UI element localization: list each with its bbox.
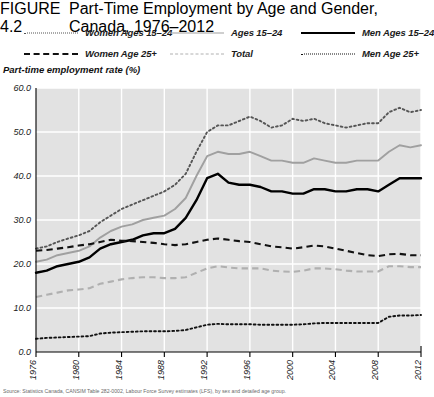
y-axis-title: Part-time employment rate (%): [3, 64, 140, 75]
x-tick-label: 2008: [370, 360, 380, 381]
x-tick-label: 1976: [28, 360, 38, 380]
legend-item-women-ages-15-24: Women Ages 15–24: [24, 27, 170, 38]
legend-row-2: Women Age 25+ Total Men Age 25+: [24, 43, 430, 64]
y-tick-label: 0.0: [18, 347, 31, 357]
legend-item-total: Total: [170, 48, 301, 59]
legend-item-men-ages-15-24: Men Ages 15–24: [301, 27, 430, 38]
y-tick-label: 30.0: [13, 215, 31, 225]
legend-swatch-dotted-gray: [24, 28, 78, 38]
y-tick-label: 60.0: [13, 83, 31, 93]
legend-swatch-dashed-gray: [170, 49, 224, 59]
legend-item-men-age-25-plus: Men Age 25+: [301, 48, 430, 59]
x-tick-label: 2000: [285, 360, 295, 381]
legend-label: Total: [231, 48, 253, 59]
y-axis-tick-labels: 0.010.020.030.040.050.060.0: [12, 83, 31, 357]
x-tick-label: 1988: [156, 360, 166, 380]
legend-label: Ages 15–24: [231, 27, 282, 38]
legend-item-ages-15-24: Ages 15–24: [170, 27, 301, 38]
x-tick-label: 1980: [71, 360, 81, 380]
x-tick-label: 2012: [413, 360, 423, 381]
chart-plot-container: 0.010.020.030.040.050.060.0 197619801984…: [0, 80, 432, 390]
y-tick-label: 20.0: [12, 259, 31, 269]
x-tick-label: 1996: [242, 360, 252, 380]
y-tick-label: 50.0: [13, 127, 31, 137]
legend-label: Men Age 25+: [362, 48, 419, 59]
legend-swatch-dashed-black: [24, 49, 78, 59]
source-footnote: Source: Statistics Canada, CANSIM Table …: [3, 388, 429, 394]
legend-item-women-age-25-plus: Women Age 25+: [24, 48, 170, 59]
legend-swatch-solid-black: [301, 28, 355, 38]
figure-header: FIGURE 4.2 Part-Time Employment by Age a…: [0, 0, 432, 20]
y-tick-label: 10.0: [13, 303, 31, 313]
x-tick-label: 1984: [114, 360, 124, 380]
y-tick-label: 40.0: [13, 171, 31, 181]
x-axis-tick-labels: 1976198019841988199219962000200420082012: [28, 360, 423, 381]
x-tick-label: 1992: [199, 360, 209, 380]
legend-row-1: Women Ages 15–24 Ages 15–24 Men Ages 15–…: [24, 22, 430, 43]
legend-swatch-solid-gray: [170, 28, 224, 38]
legend-label: Women Age 25+: [85, 48, 157, 59]
legend-label: Men Ages 15–24: [362, 27, 434, 38]
line-chart: 0.010.020.030.040.050.060.0 197619801984…: [0, 80, 432, 390]
x-tick-label: 2004: [327, 360, 337, 381]
chart-legend: Women Ages 15–24 Ages 15–24 Men Ages 15–…: [24, 22, 430, 64]
legend-swatch-dotted-black: [301, 49, 355, 59]
legend-label: Women Ages 15–24: [85, 27, 172, 38]
